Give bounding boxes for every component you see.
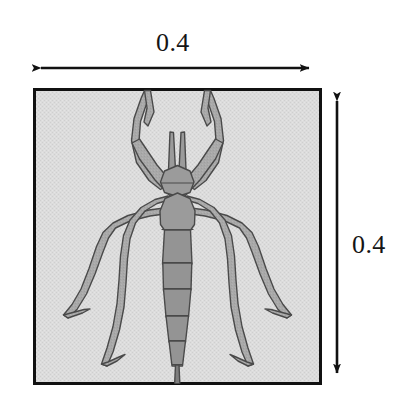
figure-canvas [0,0,410,395]
abdomen-segment-3 [164,289,192,317]
abdomen-segment-2 [163,263,192,290]
height-dimension-label: 0.4 [352,232,386,258]
abdomen-segment-4 [166,316,189,342]
figure-root: 0.4 0.4 [0,0,410,395]
abdomen-segment-1 [163,230,193,264]
abdomen-segment-5 [169,341,186,366]
width-dimension-label: 0.4 [156,30,190,56]
thorax [160,193,195,231]
head [161,166,195,197]
